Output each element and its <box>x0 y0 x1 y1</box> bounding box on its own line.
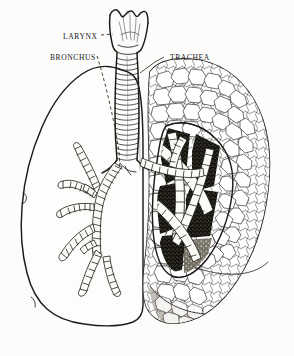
label-trachea: TRACHEA <box>170 53 210 62</box>
lungs-anatomical-figure: LARYNX BRONCHUS TRACHEA <box>0 0 294 356</box>
lungs-diagram-canvas: LARYNX BRONCHUS TRACHEA <box>0 0 294 356</box>
label-bronchus: BRONCHUS <box>50 53 96 62</box>
label-larynx: LARYNX <box>63 32 98 41</box>
